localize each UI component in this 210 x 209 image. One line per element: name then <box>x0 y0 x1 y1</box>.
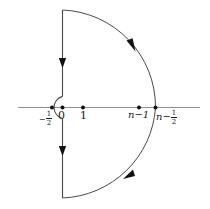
label-minus-one-half-sign: − <box>39 115 46 124</box>
arrow-lower-vertical-icon <box>59 146 66 156</box>
point-n-minus-one-half <box>154 106 158 110</box>
label-n-minus-one-half-numerator: 1 <box>171 110 177 118</box>
label-n-minus-one-half-fraction: 12 <box>171 110 177 126</box>
label-n-minus-one-half: n−12 <box>156 110 177 126</box>
label-minus-one-half-fraction: 12 <box>46 111 52 127</box>
arrow-upper-vertical-icon <box>59 58 66 68</box>
label-minus-one-half: −12 <box>39 111 52 127</box>
label-zero: 0 <box>58 110 65 121</box>
contour-diagram: −12 0 1 n−1 n−12 <box>0 0 210 209</box>
label-n-minus-one-half-denominator: 2 <box>171 118 177 126</box>
label-n-minus-one-half-lead: n− <box>156 111 171 122</box>
arrow-lower-arc-icon <box>123 170 135 180</box>
label-n-minus-one: n−1 <box>128 110 149 120</box>
arrow-upper-arc-icon <box>127 38 136 51</box>
contour-large-arc <box>63 10 156 198</box>
label-minus-one-half-denominator: 2 <box>46 119 52 127</box>
point-minus-one-half <box>50 106 54 110</box>
label-one: 1 <box>80 110 87 121</box>
label-minus-one-half-numerator: 1 <box>46 111 52 119</box>
contour-diagram-canvas <box>0 0 210 209</box>
